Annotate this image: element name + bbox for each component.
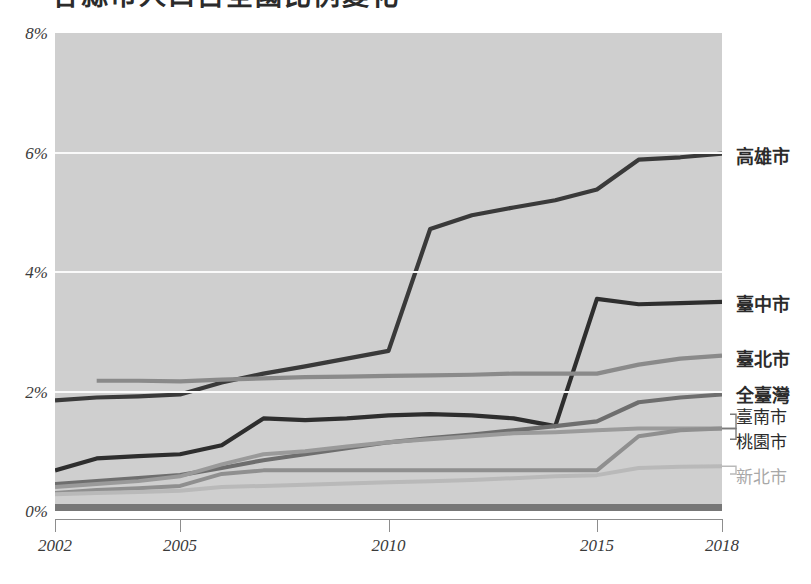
x-tick-label-2010: 2010 [372, 536, 406, 556]
y-tick-label-2: 2% [2, 383, 48, 403]
series-line-臺南市 [55, 429, 722, 488]
leader-line-桃園市 [722, 429, 736, 440]
x-tick-label-2015: 2015 [580, 536, 614, 556]
y-tick-label-8: 8% [2, 24, 48, 44]
x-tick-mark-2018 [722, 519, 723, 532]
x-tick-mark-2015 [597, 519, 598, 532]
series-label-臺中市: 臺中市 [736, 290, 790, 316]
gridline-4 [55, 271, 722, 273]
gridline-6 [55, 152, 722, 154]
leader-line-新北市 [722, 466, 736, 474]
series-label-新北市: 新北市 [736, 463, 787, 488]
y-tick-label-0: 0% [2, 502, 48, 522]
x-tick-label-2002: 2002 [38, 536, 72, 556]
x-tick-label-2005: 2005 [163, 536, 197, 556]
gridline-2 [55, 391, 722, 393]
series-line-臺北市 [97, 356, 722, 382]
series-label-桃園市: 桃園市 [736, 428, 787, 453]
series-label-臺南市: 臺南市 [736, 403, 787, 428]
series-line-高雄市 [55, 154, 722, 401]
x-tick-mark-2005 [180, 519, 181, 532]
plot-area [55, 33, 722, 511]
y-tick-label-4: 4% [2, 263, 48, 283]
x-tick-mark-2002 [55, 519, 56, 532]
series-line-臺中市 [55, 299, 722, 470]
series-label-高雄市: 高雄市 [736, 142, 790, 168]
y-tick-label-6: 6% [2, 144, 48, 164]
x-tick-mark-2010 [389, 519, 390, 532]
line-chart: 0%2%4%6%8% 20022005201020152018 高雄市臺中市臺北… [0, 0, 811, 584]
series-label-臺北市: 臺北市 [736, 345, 790, 371]
leader-line-臺南市 [722, 414, 736, 428]
x-tick-label-2018: 2018 [705, 536, 739, 556]
